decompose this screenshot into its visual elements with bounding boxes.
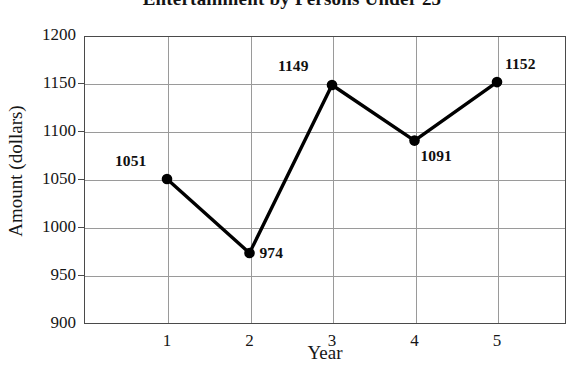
data-point-marker: [244, 248, 255, 259]
data-point-marker: [409, 135, 420, 146]
data-series-layer: [0, 0, 584, 373]
data-point-marker: [162, 174, 173, 185]
data-point-marker: [327, 80, 338, 91]
series-line: [167, 82, 497, 253]
data-point-marker: [492, 77, 503, 88]
x-axis-title: Year: [84, 342, 566, 364]
chart-figure: Entertainment by Persons Under 25 Amount…: [0, 0, 584, 373]
